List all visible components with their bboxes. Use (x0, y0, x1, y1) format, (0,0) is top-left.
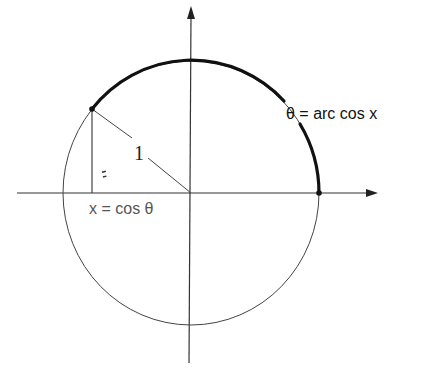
radius-label: 1 (134, 142, 144, 164)
point-on-x-axis (316, 190, 322, 196)
unit-circle-diagram: 1 θ = arc cos x x = cos θ (0, 0, 445, 375)
radius-line (92, 109, 132, 138)
point-on-circle (89, 106, 95, 112)
cos-projection-label: x = cos θ (89, 200, 154, 217)
scan-mark-2 (103, 175, 107, 177)
y-axis (189, 14, 191, 363)
radius-line-lower (148, 158, 191, 193)
arc-theta-part2 (300, 124, 319, 193)
arc-label: θ = arc cos x (286, 105, 377, 122)
arc-theta-part1 (92, 60, 284, 109)
x-axis-arrow-icon (366, 189, 378, 197)
scan-mark (102, 171, 106, 174)
y-axis-arrow-icon (187, 6, 195, 19)
